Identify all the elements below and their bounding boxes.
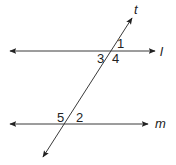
angle-4-label: 4	[112, 51, 119, 66]
line-m-label: m	[155, 116, 166, 131]
angle-1-label: 1	[117, 36, 124, 51]
transversal-t-label: t	[134, 2, 139, 17]
angle-5-label: 5	[57, 110, 64, 125]
parallel-lines-transversal-diagram: l m t 1 3 4 5 2	[0, 0, 176, 165]
angle-2-label: 2	[76, 110, 83, 125]
angle-3-label: 3	[97, 51, 104, 66]
line-l-label: l	[160, 44, 164, 59]
